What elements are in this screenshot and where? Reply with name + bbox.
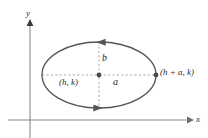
- center-point: [97, 73, 102, 78]
- y-axis-label: y: [26, 9, 30, 18]
- semi-major-axis-label: a: [113, 77, 118, 87]
- x-axis: [8, 117, 194, 124]
- center-coordinate-label: (h, k): [59, 78, 78, 87]
- x-axis-arrowhead: [187, 117, 194, 124]
- ellipse-top-direction-arrow: [97, 39, 106, 46]
- ellipse-figure: y x b a (h, k) (h + a, k): [0, 0, 208, 138]
- semi-minor-axis-label: b: [102, 53, 107, 63]
- vertex-coordinate-label: (h + a, k): [160, 68, 194, 77]
- ellipse-bottom-direction-arrow: [93, 104, 102, 111]
- y-axis-arrowhead: [27, 19, 34, 26]
- vertex-point: [154, 73, 159, 78]
- x-axis-label: x: [196, 115, 200, 124]
